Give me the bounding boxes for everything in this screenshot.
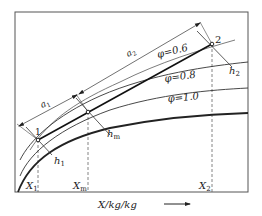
- x1-label: X1: [25, 180, 38, 193]
- point-2-label: 2: [215, 34, 221, 45]
- phi-0.6-curve: [20, 62, 248, 160]
- h1-label: h1: [54, 155, 65, 168]
- phi-1.0-curve: [18, 113, 248, 192]
- xm-label: Xm: [72, 180, 87, 193]
- x2-label: X2: [198, 180, 211, 193]
- mixing-diagram: 1 2 φ=0.6 φ=0.8 φ=1.0 h1 hm h2 a1 a2 X1 …: [0, 0, 262, 216]
- a2-label: a2: [124, 46, 137, 60]
- hm-label: hm: [107, 128, 120, 141]
- plot-frame: [15, 12, 248, 192]
- phi-0.8-label: φ=0.8: [164, 69, 197, 84]
- point-1-label: 1: [35, 127, 41, 137]
- phi-0.6-label: φ=0.6: [156, 42, 190, 60]
- h2-label: h2: [229, 65, 240, 78]
- point-1-marker: [36, 138, 40, 142]
- a1-label: a1: [39, 97, 52, 111]
- point-2-marker: [210, 42, 214, 46]
- x-axis-label: X/kg/kg: [97, 199, 137, 210]
- point-m-marker: [86, 110, 90, 114]
- phi-1.0-label: φ=1.0: [167, 90, 200, 104]
